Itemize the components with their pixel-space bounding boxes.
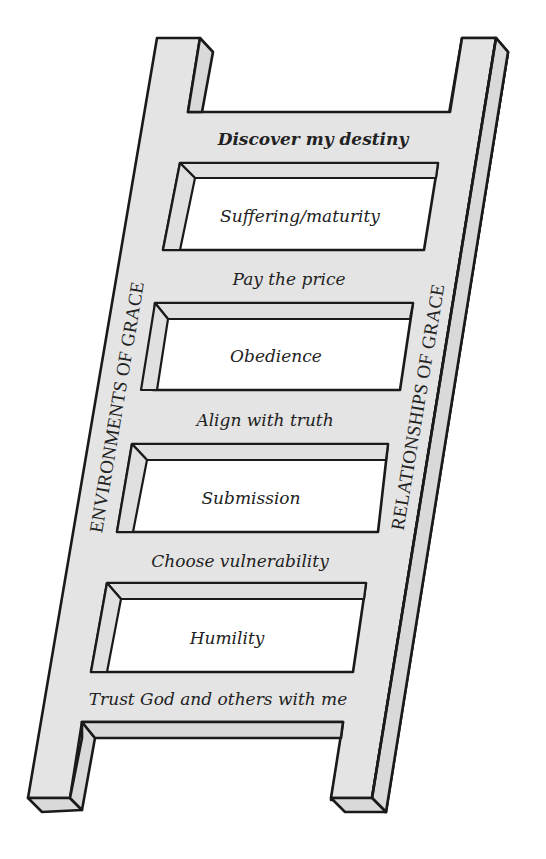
rung-label-trust-god: Trust God and others with me xyxy=(89,689,348,709)
bottom-rung-underside xyxy=(82,722,343,738)
rung-label-pay-the-price: Pay the price xyxy=(231,269,345,289)
rung-label-choose-vulnerability: Choose vulnerability xyxy=(151,551,329,571)
hole-1-top-bevel xyxy=(180,163,438,178)
hole-3-top-bevel xyxy=(132,444,388,460)
ladder-diagram: Discover my destiny Suffering/maturity O… xyxy=(0,0,546,859)
top-rung-label: Discover my destiny xyxy=(217,129,410,149)
hole-3-label: Submission xyxy=(201,488,300,508)
hole-4-top-bevel xyxy=(107,583,366,599)
hole-2-label: Obedience xyxy=(230,346,322,366)
rung-label-align-with-truth: Align with truth xyxy=(194,410,333,430)
hole-1-label: Suffering/maturity xyxy=(220,206,380,226)
hole-4-label: Humility xyxy=(189,628,265,648)
hole-2-top-bevel xyxy=(155,303,413,319)
